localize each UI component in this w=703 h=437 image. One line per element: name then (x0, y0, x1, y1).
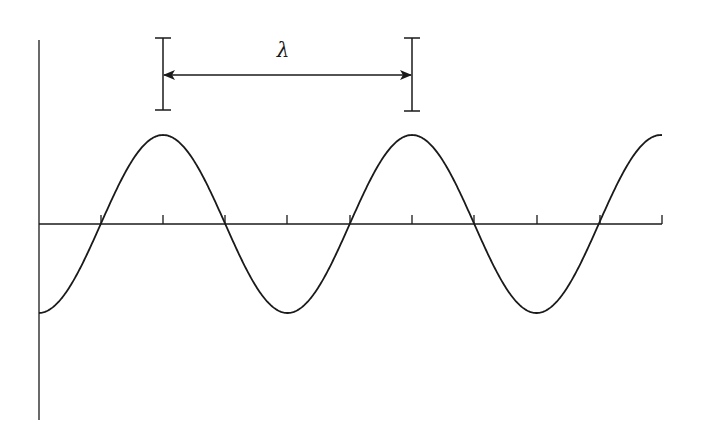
x-axis-ticks (101, 215, 662, 224)
wavelength-diagram: λ (0, 0, 703, 437)
wavelength-label: λ (276, 38, 290, 62)
wavelength-marker: λ (155, 38, 420, 111)
left-bracket (155, 38, 171, 110)
